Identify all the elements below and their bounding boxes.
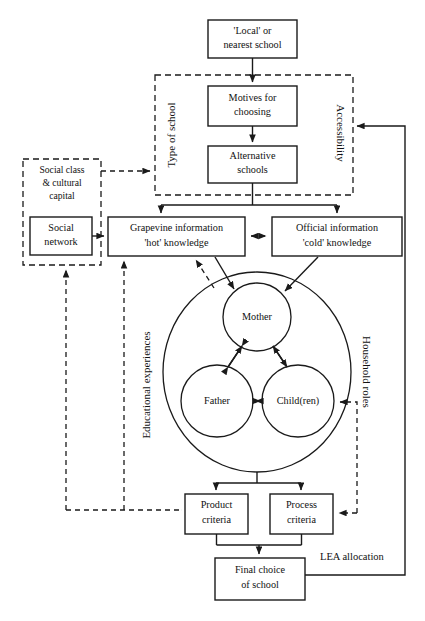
label-educational-experiences: Educational experiences [140, 331, 152, 438]
box-product-criteria-line1: Product [201, 499, 233, 510]
circle-children-label: Child(ren) [277, 395, 319, 407]
diagram-root: Type of school Accessibility Social clas… [0, 0, 425, 621]
connector-child-mother [273, 346, 287, 367]
box-official-line1: Official information [296, 222, 378, 233]
label-lea-allocation: LEA allocation [320, 551, 385, 562]
school-choice-diagram: Type of school Accessibility Social clas… [0, 0, 425, 621]
connector-official-to-mother [285, 257, 318, 291]
box-final-choice-line2: of school [241, 579, 279, 590]
label-social-class-line2: & cultural [42, 177, 81, 188]
label-social-class-line3: capital [49, 190, 75, 201]
connector-householdroles-to-children [340, 402, 357, 513]
label-social-class-line1: Social class [39, 164, 84, 175]
circle-father-label: Father [204, 395, 231, 406]
connector-father-mother [228, 346, 242, 367]
label-accessibility: Accessibility [335, 104, 347, 162]
box-local-school-line2: nearest school [224, 39, 282, 50]
box-final-choice-line1: Final choice [235, 564, 286, 575]
box-product-criteria-line2: criteria [202, 514, 231, 525]
box-motives-line2: choosing [234, 106, 271, 117]
box-social-network-line1: Social [48, 222, 74, 233]
circle-household [163, 272, 351, 472]
label-household-roles: Household roles [361, 336, 373, 408]
connector-grapevine-to-mother [215, 257, 234, 289]
box-alternative-schools-line2: schools [237, 164, 268, 175]
box-social-network-line2: network [44, 236, 78, 247]
label-type-of-school: Type of school [165, 102, 177, 167]
box-grapevine-line2: 'hot' knowledge [145, 237, 209, 248]
box-motives-line1: Motives for [229, 92, 277, 103]
box-process-criteria-line2: criteria [287, 514, 316, 525]
box-process-criteria-line1: Process [286, 499, 317, 510]
connector-household-to-grapevine [196, 260, 214, 288]
box-official-line2: 'cold' knowledge [303, 237, 372, 248]
box-alternative-schools-line1: Alternative [230, 150, 276, 161]
box-grapevine-line1: Grapevine information [130, 222, 223, 233]
box-local-school-line1: 'Local' or [234, 25, 273, 36]
circle-mother-label: Mother [242, 311, 273, 322]
